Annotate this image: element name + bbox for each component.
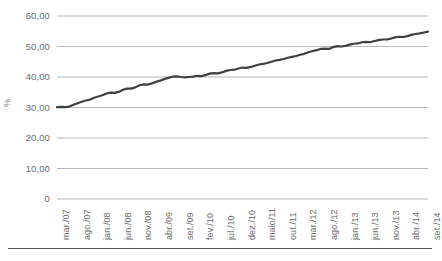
x-axis-tick-label: nov./08 [143, 210, 153, 240]
x-axis-tick-label: jan./08 [102, 212, 112, 240]
x-axis-tick-label: ago./07 [82, 209, 92, 240]
x-axis-tick-label: set./14 [432, 212, 442, 240]
x-axis-tick-label: out./11 [288, 212, 298, 240]
x-axis-tick-label: abr./14 [411, 212, 421, 240]
gridline-group [57, 16, 428, 199]
y-axis-tick-label: 10,00 [6, 163, 50, 174]
x-axis-tick-label: abr./09 [164, 212, 174, 240]
x-axis-tick-label: dez./10 [247, 210, 257, 240]
y-axis-tick-label: 0 [6, 193, 50, 204]
x-axis-tick-label: jun./08 [123, 212, 133, 240]
y-axis-tick-label: 40,00 [6, 71, 50, 82]
x-axis-tick-label: nov./13 [391, 210, 401, 240]
x-axis-tick-label: mar./07 [61, 209, 71, 240]
x-axis-tick-label: ago./12 [329, 209, 339, 240]
data-series-line [57, 32, 428, 108]
x-axis-tick-label: jun./13 [370, 212, 380, 240]
y-axis-tick-label: 50,00 [6, 41, 50, 52]
x-axis-tick-label: fev./10 [205, 213, 215, 240]
x-axis-tick-label: jul./10 [226, 215, 236, 240]
x-axis-tick-label: jan./13 [350, 212, 360, 240]
x-axis-tick-label: maio/11 [267, 208, 277, 240]
y-axis-tick-label: 60,00 [6, 10, 50, 21]
x-axis-tick-label: mar./12 [308, 209, 318, 240]
x-axis-tick-label: set./09 [185, 212, 195, 240]
y-axis-tick-label: 20,00 [6, 132, 50, 143]
y-axis-tick-label: 30,00 [6, 102, 50, 113]
bottom-divider-rule [8, 248, 432, 249]
